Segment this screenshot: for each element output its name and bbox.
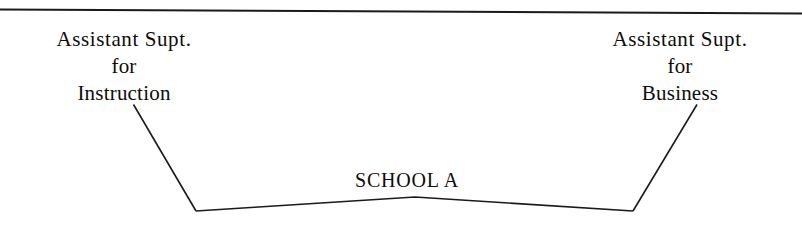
node-assistant-supt-instruction: Assistant Supt. for Instruction	[22, 26, 226, 107]
node-assistant-supt-business: Assistant Supt. for Business	[578, 26, 782, 107]
node-school-a-label: SCHOOL A	[316, 168, 498, 192]
node-right-line-3: Business	[578, 80, 782, 107]
connector-line-instruction	[134, 105, 197, 212]
connector-line-business	[633, 105, 697, 212]
node-left-line-2: for	[22, 53, 226, 80]
top-divider-rule	[0, 10, 802, 14]
node-right-line-2: for	[578, 53, 782, 80]
org-chart-page: Assistant Supt. for Instruction Assistan…	[0, 0, 802, 227]
connector-baseline-school-a	[196, 197, 633, 211]
node-left-line-3: Instruction	[22, 80, 226, 107]
node-right-line-1: Assistant Supt.	[578, 26, 782, 53]
node-left-line-1: Assistant Supt.	[22, 26, 226, 53]
